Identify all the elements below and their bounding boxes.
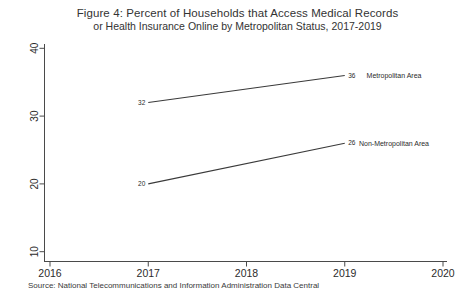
y-axis-tick-label-10: 10 (30, 246, 41, 258)
x-axis-tick-label-2017: 2017 (137, 267, 161, 279)
series-label-non-metropolitan-area: Non-Metropolitan Area (359, 140, 429, 148)
x-axis-tick-label-2019: 2019 (333, 267, 357, 279)
point-label-start-non-metropolitan-area: 20 (138, 180, 146, 187)
source-note: Source: National Telecommunications and … (28, 281, 319, 290)
x-axis-tick-label-2020: 2020 (431, 267, 455, 279)
plot-area: 10203040201620172018201920203236Metropol… (0, 0, 475, 302)
x-axis-tick-label-2018: 2018 (235, 267, 259, 279)
y-axis-tick-label-40: 40 (30, 42, 41, 54)
series-line-metropolitan-area (148, 75, 345, 102)
point-label-end-metropolitan-area: 36 (348, 72, 356, 79)
y-axis-tick-label-30: 30 (30, 110, 41, 122)
point-label-start-metropolitan-area: 32 (138, 99, 146, 106)
y-axis-tick-label-20: 20 (30, 178, 41, 190)
series-line-non-metropolitan-area (148, 143, 345, 184)
figure-4-chart: Figure 4: Percent of Households that Acc… (0, 0, 475, 302)
x-axis-tick-label-2016: 2016 (38, 267, 62, 279)
point-label-end-non-metropolitan-area: 26 (348, 139, 356, 146)
series-label-metropolitan-area: Metropolitan Area (367, 72, 422, 80)
